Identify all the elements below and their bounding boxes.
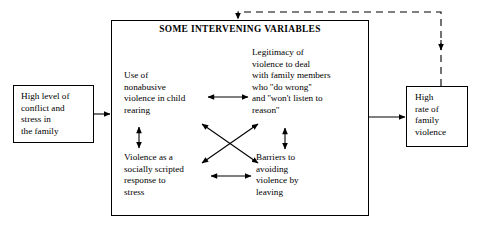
antecedent-box-label: High level of conflict and stress in the… [21, 91, 93, 137]
node-legitimacy: Legitimacy of violence to deal with fami… [252, 47, 360, 117]
node-barriers: Barriers to avoiding violence by leaving [256, 152, 346, 198]
node-socially-scripted: Violence as a socially scripted response… [124, 152, 206, 198]
antecedent-box: High level of conflict and stress in the… [13, 85, 94, 143]
outcome-box-label: High rate of family violence [415, 92, 467, 138]
panel-title: SOME INTERVENING VARIABLES [111, 24, 369, 34]
outcome-box: High rate of family violence [406, 86, 468, 147]
diagram-canvas: High level of conflict and stress in the… [0, 0, 485, 233]
node-child-rearing: Use of nonabusive violence in child rear… [124, 70, 204, 116]
